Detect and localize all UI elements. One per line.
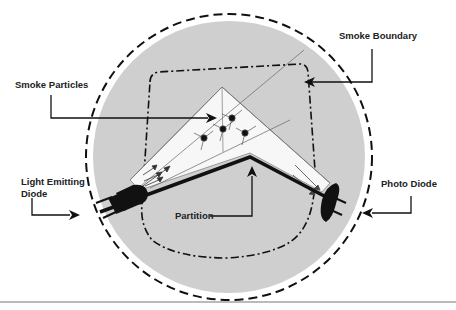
label-led-line2: Diode [21,188,47,200]
led-leader [32,198,70,215]
arrowhead [362,208,373,218]
label-led-line1: Light Emitting [21,176,85,188]
label-smoke-boundary: Smoke Boundary [339,30,417,42]
label-partition: Partition [175,210,214,222]
photo-diode-leader [372,196,411,213]
smoke-detector-diagram: Smoke Particles Smoke Boundary Light Emi… [0,0,456,310]
label-smoke-particles: Smoke Particles [15,79,88,91]
diagram-canvas [0,0,456,310]
label-photo-diode: Photo Diode [381,178,437,190]
arrowhead [69,210,80,220]
